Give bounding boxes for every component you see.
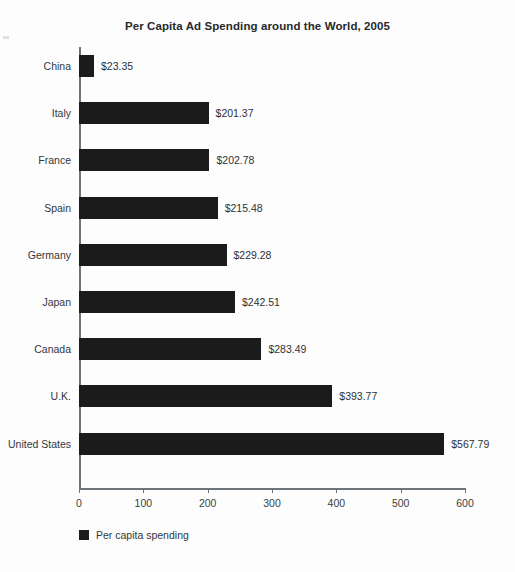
category-label-wrap: U.K. [8, 385, 71, 407]
chart-bar-row: Canada$283.49 [79, 338, 465, 360]
chart-bar-row: Italy$201.37 [79, 102, 465, 124]
chart-bar-row: Japan$242.51 [79, 291, 465, 313]
category-label-wrap: Italy [8, 102, 71, 124]
category-label: Germany [28, 249, 71, 261]
x-axis-tick [143, 488, 144, 493]
chart-bar-row: Spain$215.48 [79, 197, 465, 219]
x-axis-tick-label: 300 [263, 497, 281, 509]
x-axis-tick-label: 100 [135, 497, 153, 509]
bar-value-label: $202.78 [216, 154, 254, 166]
x-axis-tick-label: 0 [76, 497, 82, 509]
category-label-wrap: China [8, 55, 71, 77]
category-label-wrap: Japan [8, 291, 71, 313]
chart-title: Per Capita Ad Spending around the World,… [0, 20, 515, 32]
legend-label: Per capita spending [96, 529, 189, 541]
scan-artifact [3, 36, 9, 39]
bar-value-label: $229.28 [234, 249, 272, 261]
category-label: France [38, 154, 71, 166]
x-axis-tick-label: 200 [199, 497, 217, 509]
category-label-wrap: France [8, 149, 71, 171]
x-axis-tick [79, 488, 80, 493]
x-axis-tick [401, 488, 402, 493]
bar-value-label: $215.48 [225, 202, 263, 214]
plot-area: 0100200300400500600China$23.35Italy$201.… [79, 47, 465, 488]
category-label: Italy [52, 107, 71, 119]
chart-bar[interactable] [79, 244, 227, 266]
bar-value-label: $567.79 [451, 438, 489, 450]
chart-bar[interactable] [79, 55, 94, 77]
x-axis-tick-label: 400 [328, 497, 346, 509]
chart-legend: Per capita spending [79, 529, 189, 541]
chart-bar[interactable] [79, 197, 218, 219]
chart-bar[interactable] [79, 338, 261, 360]
category-label-wrap: Germany [8, 244, 71, 266]
chart-bar-row: China$23.35 [79, 55, 465, 77]
bar-value-label: $201.37 [216, 107, 254, 119]
category-label: U.K. [51, 390, 71, 402]
category-label: Spain [44, 202, 71, 214]
x-axis-tick [336, 488, 337, 493]
category-label: United States [8, 438, 71, 450]
category-label: China [44, 60, 71, 72]
chart-bar[interactable] [79, 149, 209, 171]
chart-bar-row: U.K.$393.77 [79, 385, 465, 407]
x-axis-tick [272, 488, 273, 493]
bar-value-label: $393.77 [339, 390, 377, 402]
chart-bar-row: Germany$229.28 [79, 244, 465, 266]
legend-swatch-icon [79, 530, 89, 540]
x-axis-tick [208, 488, 209, 493]
bar-chart: Per Capita Ad Spending around the World,… [0, 0, 515, 572]
chart-bar[interactable] [79, 433, 444, 455]
chart-bar-row: United States$567.79 [79, 433, 465, 455]
category-label-wrap: Canada [8, 338, 71, 360]
bar-value-label: $283.49 [268, 343, 306, 355]
bar-value-label: $23.35 [101, 60, 133, 72]
category-label-wrap: Spain [8, 197, 71, 219]
chart-bar[interactable] [79, 102, 209, 124]
chart-bar-row: France$202.78 [79, 149, 465, 171]
x-axis-tick [465, 488, 466, 493]
chart-bar[interactable] [79, 385, 332, 407]
category-label: Canada [34, 343, 71, 355]
bar-value-label: $242.51 [242, 296, 280, 308]
category-label: Japan [42, 296, 71, 308]
chart-bar[interactable] [79, 291, 235, 313]
x-axis-tick-label: 500 [392, 497, 410, 509]
x-axis-tick-label: 600 [456, 497, 474, 509]
category-label-wrap: United States [8, 433, 71, 455]
